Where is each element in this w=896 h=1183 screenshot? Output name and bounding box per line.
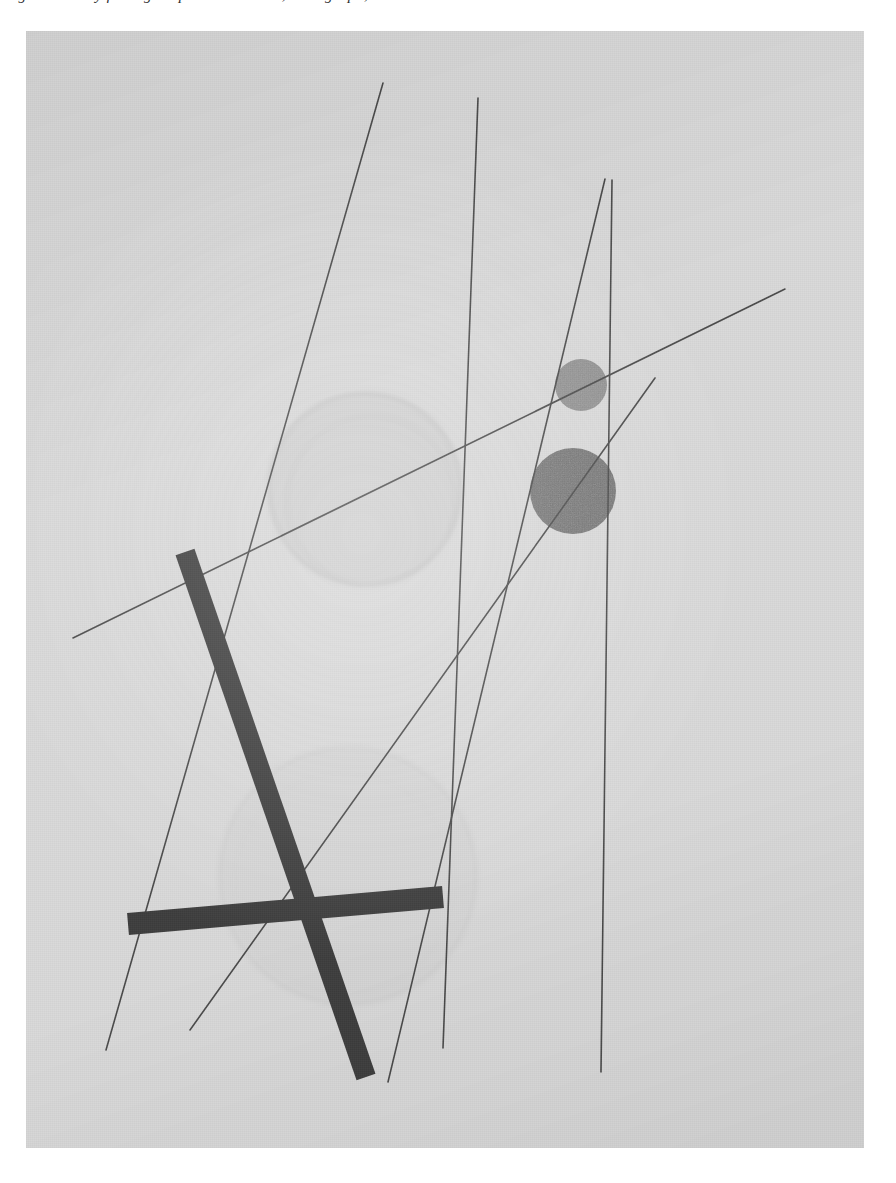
large-ghost-circle-upper bbox=[269, 393, 461, 585]
artwork-canvas bbox=[26, 31, 864, 1148]
small-light-disc bbox=[555, 359, 607, 411]
artwork-plate bbox=[26, 31, 864, 1148]
figure-caption-strip: Fig. 8 — Study for Light-Space Modulator… bbox=[0, 0, 896, 26]
figure-caption-text: Fig. 8 — Study for Light-Space Modulator… bbox=[4, 0, 405, 4]
large-dark-disc bbox=[530, 448, 616, 534]
